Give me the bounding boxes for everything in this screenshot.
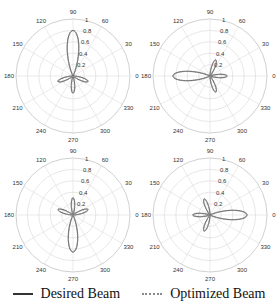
angle-tick-label: 60 [239, 18, 246, 24]
angle-tick-label: 270 [205, 137, 216, 143]
angle-tick-label: 120 [36, 18, 47, 24]
polar-plot-top-left: 03060901201501802102402703003300.20.40.6… [4, 9, 139, 143]
radial-tick-label: 0.6 [81, 39, 90, 45]
angle-tick-label: 300 [237, 267, 248, 273]
legend-label-desired: Desired Beam [41, 286, 121, 302]
grid-spoke [182, 27, 211, 76]
polar-figure: 03060901201501802102402703003300.20.40.6… [0, 0, 278, 306]
radial-tick-label: 0.6 [218, 178, 227, 184]
polar-plot-top-right: 03060901201501802102402703003300.20.40.6… [141, 9, 276, 143]
angle-tick-label: 60 [102, 18, 109, 24]
angle-tick-label: 90 [70, 9, 77, 15]
radial-tick-label: 0.8 [220, 167, 229, 173]
grid-spoke [161, 48, 210, 77]
grid-spoke [45, 27, 74, 76]
angle-tick-label: 330 [260, 244, 271, 250]
angle-tick-label: 300 [237, 128, 248, 134]
radial-tick-label: 1 [222, 156, 226, 162]
angle-tick-label: 120 [36, 157, 47, 163]
angle-tick-label: 120 [173, 157, 184, 163]
radial-tick-label: 1 [85, 156, 89, 162]
radial-tick-label: 0.4 [216, 51, 225, 57]
radial-tick-label: 0.6 [81, 178, 90, 184]
angle-tick-label: 300 [100, 267, 111, 273]
angle-tick-label: 30 [125, 41, 132, 47]
legend: Desired Beam Optimized Beam [0, 284, 278, 304]
angle-tick-label: 300 [100, 128, 111, 134]
polar-plot-bottom-left: 03060901201501802102402703003300.20.40.6… [4, 148, 139, 282]
angle-tick-label: 150 [150, 180, 161, 186]
grid-spoke [161, 215, 210, 244]
angle-tick-label: 240 [173, 128, 184, 134]
radial-tick-label: 1 [85, 17, 89, 23]
angle-tick-label: 330 [123, 105, 134, 111]
radial-tick-label: 0.2 [214, 201, 223, 207]
radial-tick-label: 1 [222, 17, 226, 23]
grid-spoke [45, 76, 74, 125]
grid-spoke [73, 215, 102, 264]
angle-tick-label: 270 [68, 276, 79, 282]
radial-tick-label: 0.6 [218, 39, 227, 45]
radial-tick-label: 0.8 [83, 28, 92, 34]
grid-spoke [210, 76, 259, 105]
radial-tick-label: 0.4 [216, 190, 225, 196]
legend-label-optimized: Optimized Beam [170, 286, 265, 302]
angle-tick-label: 240 [36, 128, 47, 134]
angle-tick-label: 210 [13, 105, 24, 111]
radial-tick-label: 0.4 [79, 51, 88, 57]
grid-spoke [210, 215, 239, 264]
angle-tick-label: 270 [68, 137, 79, 143]
angle-tick-label: 0 [272, 212, 276, 218]
radial-tick-label: 0.2 [77, 201, 86, 207]
legend-item-optimized: Optimized Beam [142, 286, 265, 302]
angle-tick-label: 30 [262, 41, 269, 47]
angle-tick-label: 150 [13, 180, 24, 186]
angle-tick-label: 180 [141, 73, 152, 79]
grid-spoke [24, 48, 73, 77]
angle-tick-label: 240 [173, 267, 184, 273]
angle-tick-label: 90 [207, 148, 214, 154]
radial-tick-label: 0.8 [220, 28, 229, 34]
angle-tick-label: 330 [123, 244, 134, 250]
angle-tick-label: 180 [4, 212, 15, 218]
angle-tick-label: 30 [125, 180, 132, 186]
radial-tick-label: 0.4 [79, 190, 88, 196]
angle-tick-label: 120 [173, 18, 184, 24]
angle-tick-label: 0 [272, 73, 276, 79]
angle-tick-label: 60 [239, 157, 246, 163]
grid-spoke [182, 76, 211, 125]
radial-tick-label: 0.2 [77, 62, 86, 68]
angle-tick-label: 210 [150, 244, 161, 250]
angle-tick-label: 30 [262, 180, 269, 186]
angle-tick-label: 90 [207, 9, 214, 15]
angle-tick-label: 210 [13, 244, 24, 250]
grid-spoke [45, 166, 74, 215]
angle-tick-label: 210 [150, 105, 161, 111]
angle-tick-label: 270 [205, 276, 216, 282]
angle-tick-label: 180 [4, 73, 15, 79]
angle-tick-label: 90 [70, 148, 77, 154]
grid-spoke [45, 215, 74, 264]
dotted-line-icon [142, 293, 162, 295]
grid-spoke [24, 215, 73, 244]
grid-spoke [73, 215, 122, 244]
grid-spoke [161, 76, 210, 105]
polar-plot-bottom-right: 03060901201501802102402703003300.20.40.6… [141, 148, 276, 282]
legend-item-desired: Desired Beam [13, 286, 121, 302]
grid-spoke [73, 76, 102, 125]
angle-tick-label: 330 [260, 105, 271, 111]
angle-tick-label: 180 [141, 212, 152, 218]
solid-line-icon [13, 293, 33, 295]
angle-tick-label: 150 [13, 41, 24, 47]
grid-spoke [161, 187, 210, 216]
angle-tick-label: 0 [135, 212, 139, 218]
angle-tick-label: 150 [150, 41, 161, 47]
radial-tick-label: 0.8 [83, 167, 92, 173]
angle-tick-label: 240 [36, 267, 47, 273]
angle-tick-label: 0 [135, 73, 139, 79]
angle-tick-label: 60 [102, 157, 109, 163]
